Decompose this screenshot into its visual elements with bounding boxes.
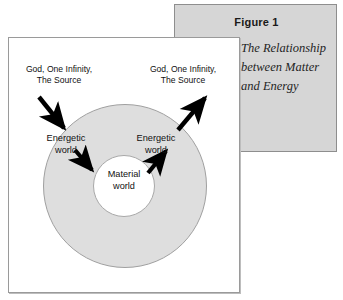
diagram-frame: God, One Infinity, The Source God, One I… — [8, 37, 240, 293]
figure-number-label: Figure 1 — [175, 16, 338, 28]
scan-artifact — [8, 2, 48, 11]
label-material-world: Material world — [93, 169, 155, 192]
figure-caption-text: The Relationship between Matter and Ener… — [241, 39, 336, 96]
label-source-left: God, One Infinity, The Source — [11, 64, 107, 86]
label-source-right: God, One Infinity, The Source — [135, 64, 231, 86]
label-energetic-world-right: Energetic world — [125, 133, 187, 156]
arrow-source-to-energetic-left — [39, 97, 64, 128]
arrow-energetic-to-source-right — [178, 98, 205, 130]
figure-page: Figure 1 The Relationship between Matter… — [0, 0, 343, 300]
label-energetic-world-left: Energetic world — [35, 133, 97, 156]
